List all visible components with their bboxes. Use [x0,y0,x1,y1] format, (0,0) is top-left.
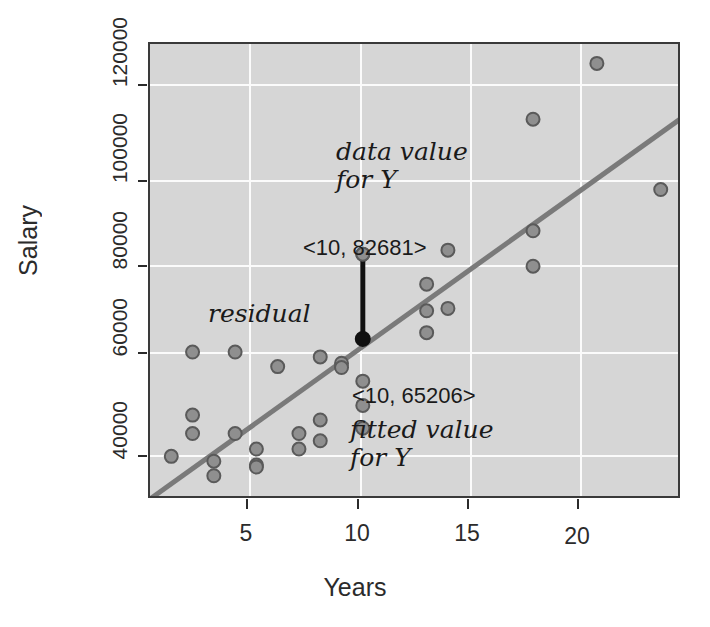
residual-annotation: residual [208,300,311,328]
data-point [420,304,433,317]
x-tick-label-5: 5 [216,520,276,547]
data-point [335,361,348,374]
data-point [186,427,199,440]
x-tick-mark-10 [357,499,359,509]
y-tick-label-120000: 120000 [108,17,132,87]
y-tick-label-100000: 100000 [108,113,132,183]
y-tick-mark-120000 [138,84,147,86]
x-tick-mark-5 [246,499,248,509]
fitted-value-annotation-line2: for Y [350,444,493,472]
fitted-value-annotation: fitted value for Y [350,416,493,472]
data-point [207,469,220,482]
data-point [250,443,263,456]
scatter-plot-figure: Salary 40000 60000 80000 100000 120000 5… [0,0,710,627]
fitted-value-point [356,332,370,346]
data-point [229,427,242,440]
data-point [527,113,540,126]
data-point [165,450,178,463]
plot-panel: data value for Y <10, 82681> residual <1… [148,42,680,498]
data-point [207,455,220,468]
data-point [654,183,667,196]
y-tick-label-40000: 40000 [108,401,132,459]
data-point [186,346,199,359]
data-point [590,57,603,70]
data-point [420,326,433,339]
data-value-annotation: data value for Y [336,138,468,194]
x-tick-mark-20 [577,499,579,509]
y-tick-label-60000: 60000 [108,298,132,356]
data-point [441,302,454,315]
x-tick-mark-15 [467,499,469,509]
data-point [441,244,454,257]
data-point [527,260,540,273]
data-value-coordinate-label: <10, 82681> [303,235,427,261]
data-point [250,461,263,474]
data-point [229,346,242,359]
x-tick-label-15: 15 [437,520,497,547]
residual-group [356,248,370,346]
x-tick-label-10: 10 [327,520,387,547]
data-point [314,434,327,447]
fitted-value-coordinate-label: <10, 65206> [352,383,476,409]
y-axis-title: Salary [14,205,43,276]
y-tick-mark-80000 [138,265,147,267]
data-value-annotation-line2: for Y [336,166,468,194]
data-point [314,350,327,363]
y-tick-label-80000: 80000 [108,211,132,269]
data-value-annotation-line1: data value [336,138,468,166]
y-tick-mark-60000 [138,352,147,354]
data-point [271,360,284,373]
data-point [292,427,305,440]
data-point [314,413,327,426]
x-axis-title: Years [0,573,710,602]
y-tick-mark-40000 [138,455,147,457]
fitted-value-annotation-line1: fitted value [350,416,493,444]
data-point [420,278,433,291]
x-tick-label-20: 20 [547,523,607,550]
data-point [292,443,305,456]
data-point [186,409,199,422]
data-point [527,224,540,237]
y-tick-mark-100000 [138,180,147,182]
